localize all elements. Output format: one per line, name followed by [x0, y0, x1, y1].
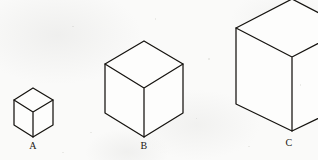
cube-label-c: C	[286, 137, 293, 148]
figure-canvas: A B C	[0, 0, 318, 160]
cube-c	[236, 0, 318, 131]
cube-label-a: A	[29, 140, 36, 151]
cube-b	[105, 41, 183, 137]
cube-label-b: B	[141, 140, 148, 151]
cube-a	[14, 88, 53, 137]
cubes-drawing	[0, 0, 318, 160]
